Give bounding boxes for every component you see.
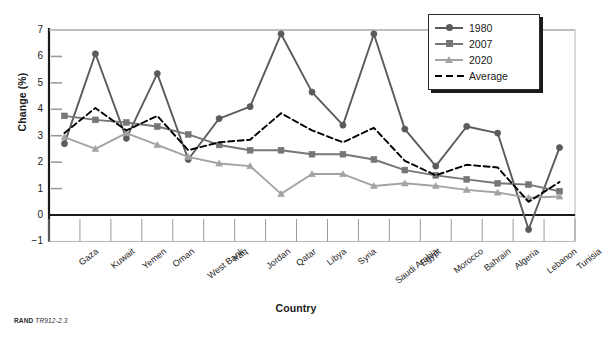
legend-swatch-2020-icon bbox=[435, 54, 463, 66]
data-point-marker bbox=[495, 180, 501, 186]
legend-label: Average bbox=[469, 71, 508, 82]
legend-item-1980: 1980 bbox=[435, 20, 533, 36]
legend-swatch-2007-icon bbox=[435, 38, 463, 50]
data-point-marker bbox=[525, 226, 531, 232]
legend-label: 1980 bbox=[469, 23, 492, 34]
data-point-marker bbox=[402, 126, 408, 132]
series-2020 bbox=[61, 130, 563, 201]
x-axis-label: Country bbox=[0, 302, 592, 314]
data-point-marker bbox=[526, 182, 532, 188]
data-point-marker bbox=[371, 157, 377, 163]
chart-legend: 198020072020Average bbox=[428, 14, 540, 90]
y-tick-label: 2 bbox=[17, 157, 43, 167]
data-point-marker bbox=[278, 31, 284, 37]
data-point-marker bbox=[495, 130, 501, 136]
data-point-marker bbox=[464, 176, 470, 182]
data-point-marker bbox=[93, 117, 99, 123]
data-point-marker bbox=[278, 147, 284, 153]
data-point-marker bbox=[247, 147, 253, 153]
y-tick-label: 5 bbox=[17, 78, 43, 88]
data-point-marker bbox=[402, 167, 408, 173]
data-point-marker bbox=[216, 115, 222, 121]
source-prefix: RAND bbox=[14, 317, 33, 324]
legend-label: 2007 bbox=[469, 39, 492, 50]
y-tick-label: 6 bbox=[17, 51, 43, 61]
y-tick-label: 4 bbox=[17, 104, 43, 114]
data-point-marker bbox=[556, 145, 562, 151]
data-point-marker bbox=[433, 163, 439, 169]
data-point-marker bbox=[340, 151, 346, 157]
y-tick-label: 1 bbox=[17, 184, 43, 194]
data-point-marker bbox=[62, 113, 68, 119]
data-point-marker bbox=[154, 71, 160, 77]
data-point-marker bbox=[247, 104, 253, 110]
legend-item-2007: 2007 bbox=[435, 36, 533, 52]
legend-dash-segment bbox=[435, 75, 442, 77]
y-tick-label: −1 bbox=[17, 236, 43, 246]
source-code: TR912-2.3 bbox=[35, 317, 67, 324]
legend-item-average: Average bbox=[435, 68, 533, 84]
y-tick-label: 7 bbox=[17, 25, 43, 35]
y-tick-label: 3 bbox=[17, 131, 43, 141]
data-point-marker bbox=[185, 131, 191, 137]
legend-marker-circle-icon bbox=[446, 24, 453, 31]
legend-dash-segment bbox=[446, 75, 453, 77]
data-point-marker bbox=[371, 31, 377, 37]
y-tick-label: 0 bbox=[17, 210, 43, 220]
data-point-marker bbox=[123, 135, 129, 141]
source-note: RAND TR912-2.3 bbox=[14, 317, 67, 324]
data-point-marker bbox=[309, 89, 315, 95]
data-point-marker bbox=[61, 141, 67, 147]
legend-marker-square-icon bbox=[446, 40, 453, 47]
legend-swatch-average-icon bbox=[435, 70, 463, 82]
legend-dash-segment bbox=[457, 75, 464, 77]
data-point-marker bbox=[123, 120, 129, 126]
data-point-marker bbox=[92, 51, 98, 57]
data-point-marker bbox=[340, 122, 346, 128]
data-point-marker bbox=[464, 123, 470, 129]
legend-swatch-1980-icon bbox=[435, 22, 463, 34]
legend-marker-triangle-icon bbox=[445, 56, 453, 63]
data-point-marker bbox=[154, 124, 160, 130]
legend-item-2020: 2020 bbox=[435, 52, 533, 68]
legend-label: 2020 bbox=[469, 55, 492, 66]
data-point-marker bbox=[309, 151, 315, 157]
